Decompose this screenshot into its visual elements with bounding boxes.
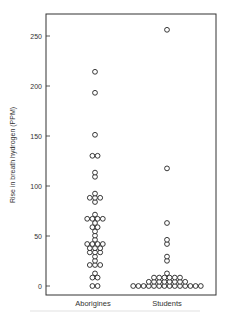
data-point [93,271,98,276]
y-tick-label: 150 [30,133,42,140]
data-point [90,153,95,158]
dot-plot-chart: 050100150200250 Rise in breath hydrogen … [0,0,228,322]
data-point [157,275,162,280]
y-tick-label: 50 [34,233,42,240]
figure-caption [0,308,228,316]
data-point [193,284,198,289]
data-point [172,275,177,280]
data-point [165,166,170,171]
data-point [165,237,170,242]
data-points [85,27,203,288]
data-point [98,263,103,268]
y-axis-ticks: 050100150200250 [30,33,50,290]
data-point [152,275,157,280]
data-point [141,284,146,289]
data-point [85,216,90,221]
category-label-aborigines: Aborigines [75,299,111,308]
y-tick-label: 100 [30,183,42,190]
data-point [98,195,103,200]
data-point [100,216,105,221]
data-point [93,69,98,74]
data-point [165,254,170,259]
plot-frame [46,14,216,295]
data-point [136,284,141,289]
data-point [95,153,100,158]
data-point [183,279,188,284]
data-point [93,90,98,95]
data-point [90,284,95,289]
y-tick-label: 0 [38,283,42,290]
data-point [165,271,170,276]
data-point [93,132,98,137]
category-label-students: Students [152,299,182,308]
data-point [146,279,151,284]
data-point [198,284,203,289]
data-point [131,284,136,289]
y-tick-label: 250 [30,33,42,40]
data-point [100,242,105,247]
data-point [85,242,90,247]
data-point [95,284,100,289]
data-point [188,284,193,289]
data-point [93,170,98,175]
data-point [93,212,98,217]
y-axis-label: Rise in breath hydrogen (PPM) [9,107,17,203]
data-point [178,275,183,280]
y-tick-label: 200 [30,83,42,90]
caption-faint-text [30,310,200,312]
data-point [93,191,98,196]
data-point [87,263,92,268]
data-point [165,27,170,32]
data-point [87,195,92,200]
data-point [165,221,170,226]
